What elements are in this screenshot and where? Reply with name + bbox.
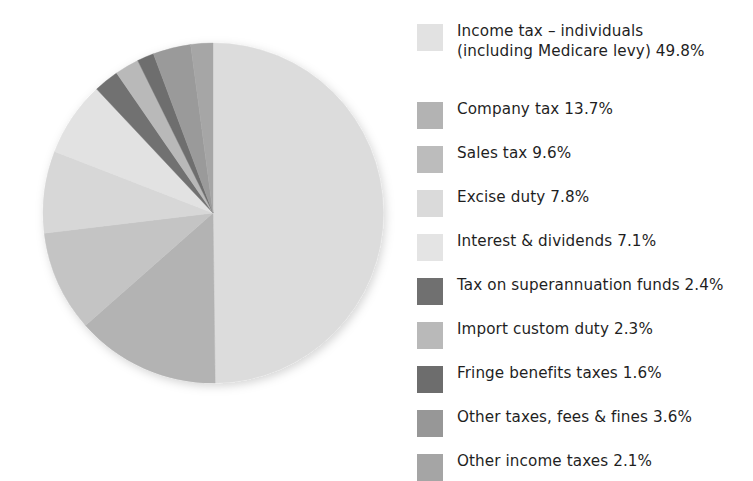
- legend-swatch-icon: [417, 410, 443, 437]
- legend-swatch-icon: [417, 322, 443, 349]
- legend-item-label: Import custom duty 2.3%: [457, 320, 753, 340]
- pie-slices-group: [43, 43, 383, 383]
- legend-item-label: Other income taxes 2.1%: [457, 452, 753, 472]
- legend-item[interactable]: Sales tax 9.6%: [417, 144, 753, 173]
- legend-swatch-icon: [417, 366, 443, 393]
- legend-swatch-icon: [417, 190, 443, 217]
- legend-item[interactable]: Company tax 13.7%: [417, 100, 753, 129]
- legend-swatch-icon: [417, 102, 443, 129]
- legend-item[interactable]: Other taxes, fees & fines 3.6%: [417, 408, 753, 437]
- legend-item-label: Excise duty 7.8%: [457, 188, 753, 208]
- legend-item-label: Other taxes, fees & fines 3.6%: [457, 408, 753, 428]
- legend-item-label: Tax on superannuation funds 2.4%: [457, 276, 753, 296]
- legend-item-label: Sales tax 9.6%: [457, 144, 753, 164]
- legend-item[interactable]: Other income taxes 2.1%: [417, 452, 753, 481]
- legend-item[interactable]: Income tax – individuals (including Medi…: [417, 22, 753, 61]
- legend-swatch-icon: [417, 278, 443, 305]
- chart-legend: Income tax – individuals (including Medi…: [417, 22, 753, 462]
- pie-slice[interactable]: [213, 43, 383, 383]
- legend-item-label: Company tax 13.7%: [457, 100, 753, 120]
- legend-swatch-icon: [417, 234, 443, 261]
- pie-chart-plot: [0, 0, 410, 471]
- legend-item-label: Interest & dividends 7.1%: [457, 232, 753, 252]
- legend-item-label: Income tax – individuals (including Medi…: [457, 22, 753, 61]
- legend-item[interactable]: Interest & dividends 7.1%: [417, 232, 753, 261]
- legend-item-label: Fringe benefits taxes 1.6%: [457, 364, 753, 384]
- legend-swatch-icon: [417, 24, 443, 51]
- legend-item[interactable]: Fringe benefits taxes 1.6%: [417, 364, 753, 393]
- legend-item[interactable]: Import custom duty 2.3%: [417, 320, 753, 349]
- pie-svg: [0, 0, 410, 471]
- legend-item[interactable]: Tax on superannuation funds 2.4%: [417, 276, 753, 305]
- legend-swatch-icon: [417, 146, 443, 173]
- legend-swatch-icon: [417, 454, 443, 481]
- legend-item[interactable]: Excise duty 7.8%: [417, 188, 753, 217]
